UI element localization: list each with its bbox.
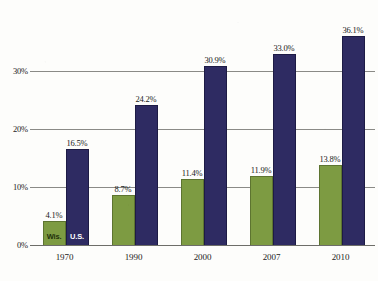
- bar-us-2010: 36.1%: [342, 36, 365, 245]
- x-tick-label-1970: 1970: [30, 252, 99, 262]
- legend-label-us: U.S.: [70, 232, 84, 241]
- bar-us-2000: 30.9%: [204, 66, 227, 245]
- bar-wis-1970: 4.1%Wis.: [43, 221, 66, 245]
- bar-wis-2010: 13.8%: [319, 165, 342, 245]
- bar-value-label: 24.2%: [136, 94, 157, 104]
- bar-group: 11.4%30.9%: [181, 10, 227, 246]
- y-tick-label-10: 10%: [2, 183, 28, 192]
- bar-us-2007: 33.0%: [273, 54, 296, 245]
- bar-value-label: 16.5%: [67, 138, 88, 148]
- x-axis: 19701990200020072010: [30, 252, 375, 272]
- bar-group: 4.1%Wis.16.5%U.S.: [43, 10, 89, 246]
- bar-value-label: 11.4%: [182, 168, 203, 178]
- y-axis: 0% 10% 20% 30%: [0, 10, 28, 246]
- bar-value-label: 33.0%: [274, 43, 295, 53]
- bar-wis-2007: 11.9%: [250, 176, 273, 245]
- y-tick-label-30: 30%: [2, 67, 28, 76]
- bar-value-label: 36.1%: [343, 25, 364, 35]
- y-tick-label-0: 0%: [2, 241, 28, 250]
- bar-wis-1990: 8.7%: [112, 195, 135, 245]
- y-tick-label-20: 20%: [2, 125, 28, 134]
- x-tick-label-2000: 2000: [168, 252, 237, 262]
- bar-value-label: 11.9%: [251, 165, 272, 175]
- x-tick-label-1990: 1990: [99, 252, 168, 262]
- x-tick-label-2007: 2007: [237, 252, 306, 262]
- bar-value-label: 4.1%: [46, 210, 63, 220]
- bar-us-1970: 16.5%U.S.: [66, 149, 89, 245]
- plot-area: 4.1%Wis.16.5%U.S.8.7%24.2%11.4%30.9%11.9…: [30, 10, 375, 246]
- bar-group: 13.8%36.1%: [319, 10, 365, 246]
- bar-value-label: 8.7%: [115, 184, 132, 194]
- bar-wis-2000: 11.4%: [181, 179, 204, 245]
- bar-group: 8.7%24.2%: [112, 10, 158, 246]
- bar-value-label: 13.8%: [320, 154, 341, 164]
- x-tick-label-2010: 2010: [306, 252, 375, 262]
- bar-chart: 0% 10% 20% 30% 4.1%Wis.16.5%U.S.8.7%24.2…: [0, 0, 378, 281]
- bar-value-label: 30.9%: [205, 55, 226, 65]
- legend-label-wis: Wis.: [47, 232, 62, 241]
- bar-group: 11.9%33.0%: [250, 10, 296, 246]
- bar-us-1990: 24.2%: [135, 105, 158, 245]
